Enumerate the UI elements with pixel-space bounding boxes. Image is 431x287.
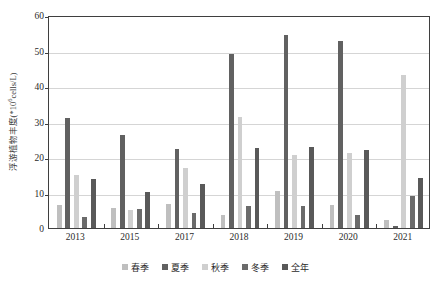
legend-swatch-icon <box>202 264 208 270</box>
legend-swatch-icon <box>122 264 128 270</box>
y-axis-tick-label: 50 <box>18 47 44 57</box>
bar <box>120 135 125 228</box>
y-axis-title-base: 浮游植物丰度(*10 <box>8 102 18 172</box>
legend-swatch-icon <box>282 264 288 270</box>
legend-label: 秋季 <box>211 261 229 274</box>
legend-item[interactable]: 春季 <box>122 261 149 274</box>
bar <box>418 178 423 228</box>
x-axis-tick <box>158 224 159 228</box>
x-axis-tick <box>376 224 377 228</box>
x-axis-tick-label: 2015 <box>120 232 139 242</box>
x-axis-tick-labels: 2013201520172018201920202021 <box>48 232 430 248</box>
legend-swatch-icon <box>162 264 168 270</box>
bar <box>91 179 96 228</box>
bars-layer <box>49 17 429 228</box>
bar <box>246 206 251 228</box>
bar <box>229 54 234 228</box>
bar <box>74 175 79 228</box>
bar <box>57 205 62 228</box>
bar <box>347 153 352 228</box>
x-axis-tick <box>213 224 214 228</box>
bar <box>65 118 70 228</box>
bar <box>401 75 406 228</box>
legend-item[interactable]: 秋季 <box>202 261 229 274</box>
bar <box>200 184 205 228</box>
bar <box>301 206 306 228</box>
bar <box>183 168 188 228</box>
legend-label: 冬季 <box>251 261 269 274</box>
legend-item[interactable]: 全年 <box>282 261 309 274</box>
bar <box>166 204 171 228</box>
phytoplankton-abundance-bar-chart: 浮游植物丰度(*106cells/L) 0102030405060 201320… <box>0 0 431 287</box>
bar <box>355 215 360 228</box>
bar <box>145 192 150 228</box>
y-axis-tick-label: 20 <box>18 153 44 163</box>
bar <box>275 191 280 228</box>
y-axis-tick-label: 60 <box>18 11 44 21</box>
bar <box>221 215 226 228</box>
x-axis-tick <box>267 224 268 228</box>
x-axis-tick-label: 2013 <box>66 232 85 242</box>
y-axis-title-tail: cells/L) <box>8 73 18 99</box>
bar <box>384 220 389 228</box>
legend-label: 全年 <box>291 261 309 274</box>
y-axis-title: 浮游植物丰度(*106cells/L) <box>2 2 18 242</box>
y-axis-tick-label: 0 <box>18 224 44 234</box>
bar <box>238 117 243 228</box>
x-axis-tick <box>104 224 105 228</box>
bar <box>393 226 398 228</box>
y-axis-tick-labels: 0102030405060 <box>18 16 44 229</box>
bar <box>255 148 260 228</box>
x-axis-tick-label: 2020 <box>339 232 358 242</box>
chart-legend: 春季夏季秋季冬季全年 <box>0 258 431 276</box>
bar <box>330 205 335 228</box>
legend-label: 夏季 <box>171 261 189 274</box>
y-axis-title-exponent: 6 <box>6 99 13 102</box>
bar <box>364 150 369 228</box>
x-axis-tick-label: 2019 <box>284 232 303 242</box>
legend-swatch-icon <box>242 264 248 270</box>
legend-label: 春季 <box>131 261 149 274</box>
bar <box>292 155 297 228</box>
bar <box>128 210 133 228</box>
bar <box>338 41 343 228</box>
y-axis-tick-label: 30 <box>18 118 44 128</box>
y-axis-tick-label: 10 <box>18 189 44 199</box>
x-axis-tick <box>322 224 323 228</box>
y-axis-tick-label: 40 <box>18 82 44 92</box>
x-axis-tick-label: 2017 <box>175 232 194 242</box>
bar <box>284 35 289 228</box>
x-axis-tick-label: 2021 <box>393 232 412 242</box>
plot-area <box>48 16 430 229</box>
x-axis-tick-label: 2018 <box>230 232 249 242</box>
legend-item[interactable]: 夏季 <box>162 261 189 274</box>
bar <box>82 217 87 228</box>
bar <box>410 196 415 228</box>
bar <box>192 213 197 228</box>
legend-item[interactable]: 冬季 <box>242 261 269 274</box>
bar <box>137 209 142 228</box>
bar <box>309 147 314 228</box>
bar <box>111 208 116 228</box>
bar <box>175 149 180 228</box>
